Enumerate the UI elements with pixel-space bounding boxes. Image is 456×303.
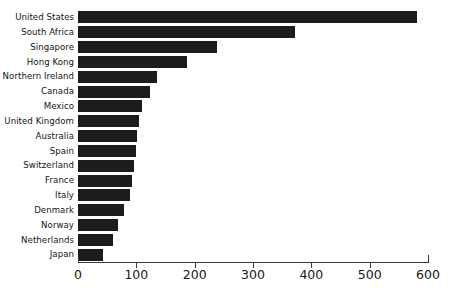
bar bbox=[78, 71, 157, 83]
bar bbox=[78, 11, 417, 23]
bar bbox=[78, 219, 118, 231]
category-label: France bbox=[0, 173, 74, 188]
category-label: Japan bbox=[0, 247, 74, 262]
bar-row bbox=[78, 143, 428, 158]
bar bbox=[78, 130, 137, 142]
bar-row bbox=[78, 40, 428, 55]
bar-row bbox=[78, 69, 428, 84]
category-label: Hong Kong bbox=[0, 54, 74, 69]
bar-row bbox=[78, 99, 428, 114]
x-axis-tick-label: 0 bbox=[74, 269, 82, 282]
bar bbox=[78, 189, 130, 201]
x-axis-right-cap bbox=[428, 255, 429, 263]
bar bbox=[78, 100, 142, 112]
bar bbox=[78, 175, 132, 187]
bar bbox=[78, 41, 217, 53]
bar-row bbox=[78, 114, 428, 129]
bar-row bbox=[78, 129, 428, 144]
bar bbox=[78, 115, 139, 127]
bar-row bbox=[78, 188, 428, 203]
bar bbox=[78, 86, 150, 98]
category-label: United States bbox=[0, 10, 74, 25]
bar bbox=[78, 234, 113, 246]
bar bbox=[78, 160, 134, 172]
x-axis-tick-label: 200 bbox=[183, 269, 207, 282]
category-label: Switzerland bbox=[0, 158, 74, 173]
bar-row bbox=[78, 173, 428, 188]
category-label: Spain bbox=[0, 143, 74, 158]
category-label: Italy bbox=[0, 188, 74, 203]
category-label: Australia bbox=[0, 129, 74, 144]
bar-rows bbox=[78, 10, 428, 262]
category-label: South Africa bbox=[0, 25, 74, 40]
category-label: Singapore bbox=[0, 40, 74, 55]
bar-row bbox=[78, 158, 428, 173]
bar bbox=[78, 145, 136, 157]
category-label: Denmark bbox=[0, 203, 74, 218]
bar-row bbox=[78, 232, 428, 247]
category-label: Canada bbox=[0, 84, 74, 99]
bar-row bbox=[78, 203, 428, 218]
category-label: Northern Ireland bbox=[0, 69, 74, 84]
x-axis-tick-label: 100 bbox=[124, 269, 148, 282]
x-axis-tick-label: 600 bbox=[416, 269, 440, 282]
bar-row bbox=[78, 54, 428, 69]
bar bbox=[78, 204, 124, 216]
bar-row bbox=[78, 25, 428, 40]
x-axis-tick-label: 400 bbox=[299, 269, 323, 282]
plot-area bbox=[78, 10, 428, 262]
x-axis-tick-label: 500 bbox=[358, 269, 382, 282]
bar bbox=[78, 249, 103, 261]
category-axis-labels: United StatesSouth AfricaSingaporeHong K… bbox=[0, 10, 74, 262]
bar-row bbox=[78, 218, 428, 233]
category-label: Norway bbox=[0, 218, 74, 233]
x-axis-left-cap bbox=[78, 255, 79, 263]
bar-row bbox=[78, 84, 428, 99]
bar-row bbox=[78, 10, 428, 25]
bar-row bbox=[78, 247, 428, 262]
bar bbox=[78, 26, 295, 38]
bar-chart: United StatesSouth AfricaSingaporeHong K… bbox=[0, 0, 456, 303]
category-label: Netherlands bbox=[0, 232, 74, 247]
x-axis-tick-label: 300 bbox=[241, 269, 265, 282]
category-label: Mexico bbox=[0, 99, 74, 114]
bar bbox=[78, 56, 187, 68]
category-label: United Kingdom bbox=[0, 114, 74, 129]
